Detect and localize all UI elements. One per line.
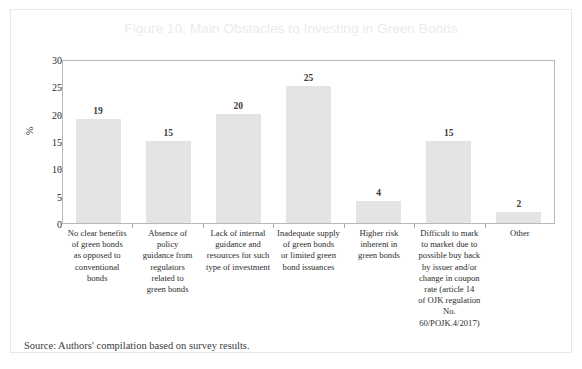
bar[interactable] (76, 119, 121, 223)
bar-slot: 25 (273, 61, 343, 223)
x-axis-category-line: bond issuances (273, 262, 343, 273)
bar-value-label: 15 (414, 128, 484, 138)
x-axis-category-line: No. 60/POJK.4/2017) (414, 306, 484, 328)
x-axis-category-line: policy (132, 239, 202, 250)
bar[interactable] (216, 114, 261, 223)
bar-slot: 4 (344, 61, 414, 223)
x-axis-category-line: guidance from (132, 250, 202, 261)
x-axis-category-label: Absence ofpolicyguidance fromregulatorsr… (132, 228, 202, 295)
bar-value-label: 2 (484, 199, 554, 209)
x-axis-category-line: Lack of internal (203, 228, 273, 239)
x-axis-labels: No clear benefitsof green bondsas oppose… (62, 228, 555, 333)
bar-series: 191520254152 (63, 61, 554, 223)
bar[interactable] (356, 201, 401, 223)
x-axis-category-line: bonds (62, 273, 132, 284)
x-axis-category-line: by issuer and/or (414, 262, 484, 273)
x-axis-category-line: change in coupon (414, 273, 484, 284)
bar-slot: 15 (133, 61, 203, 223)
x-axis-category-line: conventional (62, 262, 132, 273)
x-axis-category-line: resources for such (203, 250, 273, 261)
x-axis-category-line: guidance and (203, 239, 273, 250)
plot-area: 191520254152 (62, 60, 555, 224)
bar-value-label: 25 (273, 73, 343, 83)
x-axis-category-line: related to (132, 273, 202, 284)
x-axis-category-line: Absence of (132, 228, 202, 239)
x-axis-category-line: as opposed to (62, 250, 132, 261)
bar-value-label: 20 (203, 101, 273, 111)
chart-title: Figure 10: Main Obstacles to Investing i… (0, 21, 582, 36)
source-note: Source: Authors' compilation based on su… (24, 340, 250, 351)
bar-slot: 2 (484, 61, 554, 223)
x-axis-category-line: Difficult to mark (414, 228, 484, 239)
y-tick-label: 0 (36, 219, 62, 230)
bar-slot: 15 (414, 61, 484, 223)
x-axis-category-line: green bonds (132, 284, 202, 295)
x-axis-category-line: of green bonds (62, 239, 132, 250)
x-axis-category-line: of green bonds (273, 239, 343, 250)
x-axis-category-line: No clear benefits (62, 228, 132, 239)
bar[interactable] (286, 86, 331, 223)
bar[interactable] (496, 212, 541, 223)
bar-value-label: 15 (133, 128, 203, 138)
bar-value-label: 4 (344, 188, 414, 198)
x-axis-category-line: or limited green (273, 250, 343, 261)
bar-slot: 19 (63, 61, 133, 223)
x-axis-category-label: Other (485, 228, 555, 239)
bar[interactable] (426, 141, 471, 223)
x-axis-category-line: inherent in (344, 239, 414, 250)
x-axis-category-line: type of investment (203, 262, 273, 273)
x-axis-category-line: rate (article 14 (414, 284, 484, 295)
x-axis-category-label: Difficult to markto market due topossibl… (414, 228, 484, 329)
x-axis-category-line: Higher risk (344, 228, 414, 239)
y-axis-ticks: 051015202530 (26, 60, 62, 224)
x-axis-category-line: possible buy back (414, 250, 484, 261)
bar[interactable] (146, 141, 191, 223)
bar-slot: 20 (203, 61, 273, 223)
x-axis-category-line: regulators (132, 262, 202, 273)
x-axis-category-line: to market due to (414, 239, 484, 250)
x-axis-category-label: Inadequate supplyof green bondsor limite… (273, 228, 343, 273)
x-axis-category-label: Lack of internalguidance andresources fo… (203, 228, 273, 273)
bar-value-label: 19 (63, 106, 133, 116)
x-axis-category-line: of OJK regulation (414, 295, 484, 306)
figure-container: Figure 10: Main Obstacles to Investing i… (0, 0, 582, 369)
x-axis-category-label: Higher riskinherent ingreen bonds (344, 228, 414, 262)
source-divider (10, 330, 572, 331)
y-tick-label: 30 (36, 55, 62, 66)
x-axis-category-line: green bonds (344, 250, 414, 261)
x-axis-category-line: Inadequate supply (273, 228, 343, 239)
x-axis-category-label: No clear benefitsof green bondsas oppose… (62, 228, 132, 284)
x-axis-category-line: Other (485, 228, 555, 239)
